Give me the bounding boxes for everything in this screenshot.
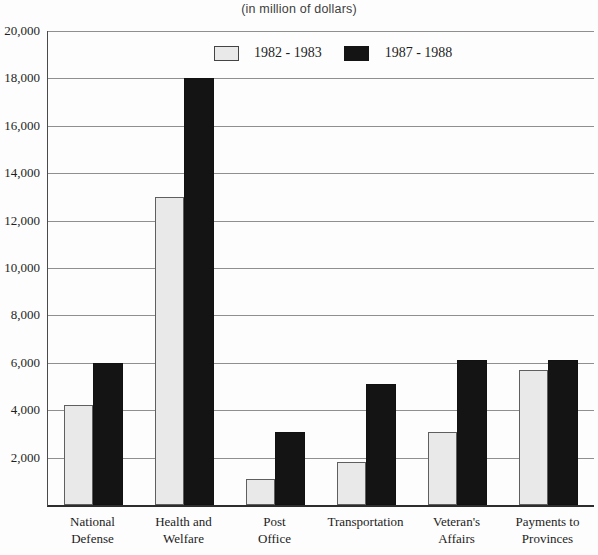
gridline-18000	[48, 78, 594, 79]
legend-swatch-1987-1988	[344, 46, 369, 61]
gridline-10000	[48, 268, 594, 269]
y-tick-16000: 16,000	[0, 118, 40, 134]
bar-1982-1983-veteran-s-affairs	[428, 432, 458, 505]
gridline-14000	[48, 173, 594, 174]
legend: 1982 - 1983 1987 - 1988	[214, 43, 452, 63]
bar-chart-figure: (in million of dollars) 1982 - 1983 1987…	[0, 0, 598, 555]
chart-title: (in million of dollars)	[0, 2, 598, 16]
gridline-6000	[48, 363, 594, 364]
y-tick-14000: 14,000	[0, 165, 40, 181]
y-tick-18000: 18,000	[0, 70, 40, 86]
bar-1982-1983-post-office	[246, 479, 276, 505]
bar-1982-1983-transportation	[337, 462, 367, 505]
bar-1987-1988-national-defense	[93, 363, 123, 505]
bar-1987-1988-payments-to-provinces	[548, 360, 578, 505]
y-tick-6000: 6,000	[0, 355, 40, 371]
legend-swatch-1982-1983	[214, 46, 239, 61]
y-tick-10000: 10,000	[0, 260, 40, 276]
bar-1987-1988-veteran-s-affairs	[457, 360, 487, 505]
bar-1982-1983-national-defense	[64, 405, 94, 505]
bar-1982-1983-payments-to-provinces	[519, 370, 549, 505]
y-tick-12000: 12,000	[0, 213, 40, 229]
bar-1987-1988-health-and-welfare	[184, 78, 214, 505]
gridline-12000	[48, 221, 594, 222]
gridline-4000	[48, 410, 594, 411]
gridline-20000	[48, 31, 594, 32]
bar-1987-1988-transportation	[366, 384, 396, 505]
legend-label-1987-1988: 1987 - 1988	[385, 45, 453, 61]
y-tick-4000: 4,000	[0, 402, 40, 418]
bar-1982-1983-health-and-welfare	[155, 197, 185, 505]
y-tick-20000: 20,000	[0, 23, 40, 39]
plot-area: 1982 - 1983 1987 - 1988	[47, 31, 594, 507]
legend-label-1982-1983: 1982 - 1983	[254, 45, 322, 61]
gridline-2000	[48, 458, 594, 459]
bar-1987-1988-post-office	[275, 432, 305, 505]
gridline-8000	[48, 315, 594, 316]
y-tick-2000: 2,000	[0, 450, 40, 466]
y-tick-8000: 8,000	[0, 307, 40, 323]
x-label-payments-to-provinces: Payments to Provinces	[493, 514, 598, 548]
gridline-16000	[48, 126, 594, 127]
